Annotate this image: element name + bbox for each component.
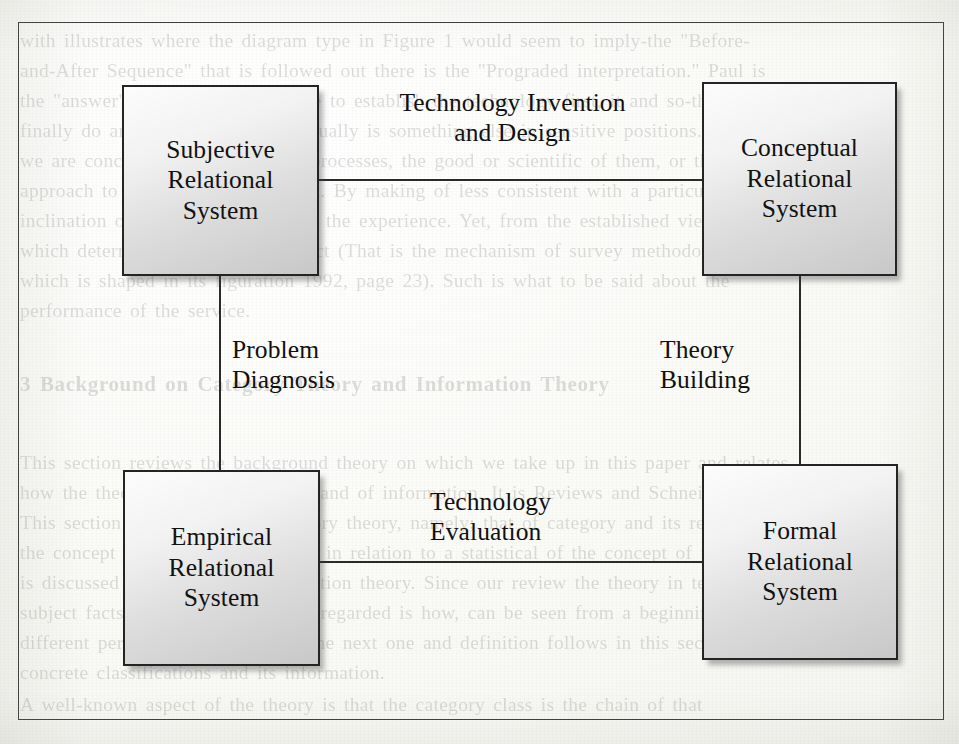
edge-line-invention-design — [318, 179, 704, 181]
edge-label-technology-evaluation: Technology Evaluation — [430, 487, 645, 547]
edge-label-theory-building: Theory Building — [660, 335, 790, 395]
node-label: Empirical Relational System — [125, 522, 318, 614]
node-empirical-relational-system[interactable]: Empirical Relational System — [123, 470, 320, 666]
edge-line-theory-building — [799, 275, 801, 465]
edge-line-technology-evaluation — [320, 561, 704, 563]
node-label: Conceptual Relational System — [704, 133, 895, 225]
node-label: Formal Relational System — [704, 516, 896, 608]
edge-label-problem-diagnosis: Problem Diagnosis — [232, 335, 432, 395]
node-conceptual-relational-system[interactable]: Conceptual Relational System — [702, 82, 897, 276]
node-label: Subjective Relational System — [124, 135, 317, 227]
edge-line-problem-diagnosis — [219, 275, 221, 471]
node-formal-relational-system[interactable]: Formal Relational System — [702, 464, 898, 660]
node-subjective-relational-system[interactable]: Subjective Relational System — [122, 85, 319, 276]
edge-label-technology-invention-and-design: Technology Invention and Design — [340, 88, 685, 148]
